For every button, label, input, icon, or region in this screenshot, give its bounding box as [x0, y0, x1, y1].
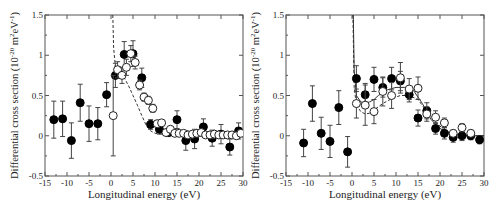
data-point — [308, 86, 316, 121]
x-tick-label: 20 — [195, 178, 205, 188]
y-axis-label: Differential cross section (10-20​ m2​eV… — [249, 11, 262, 179]
x-tick-label: -10 — [302, 178, 314, 188]
y-tick-label: 1 — [280, 50, 285, 60]
data-point — [59, 101, 67, 136]
data-point — [173, 111, 181, 129]
x-tick-label: -5 — [85, 178, 93, 188]
data-point — [414, 110, 422, 126]
data-point — [458, 131, 466, 141]
data-point — [158, 119, 166, 127]
figure: -15-10-5051015202530-0.500.511.5Longitud… — [0, 0, 501, 206]
data-point — [226, 139, 234, 155]
data-point — [144, 96, 152, 104]
y-tick-label: 1.5 — [32, 10, 44, 20]
data-point — [467, 129, 475, 137]
y-tick-label: 1.5 — [273, 10, 285, 20]
x-tick-label: -10 — [61, 178, 73, 188]
y-tick-label: 0 — [280, 131, 285, 141]
x-tick-label: 0 — [350, 178, 355, 188]
x-tick-label: 30 — [239, 178, 249, 188]
right-panel: -15-10-5051015202530-0.500.511.5Longitud… — [249, 10, 489, 201]
x-tick-label: 25 — [217, 178, 227, 188]
y-axis-label: Differential cross section (10-20​ m2​eV… — [8, 11, 21, 179]
x-axis-label: Longitudinal energy (eV) — [329, 188, 442, 201]
data-point — [458, 124, 466, 132]
data-point — [361, 85, 369, 125]
data-point — [335, 91, 343, 125]
y-tick-label: 1 — [39, 50, 44, 60]
data-point — [300, 129, 308, 156]
data-point — [352, 89, 360, 118]
data-point — [370, 67, 378, 91]
data-point — [414, 77, 422, 100]
x-tick-label: -5 — [326, 178, 334, 188]
y-tick-label: 0.5 — [273, 91, 285, 101]
left-panel: -15-10-5051015202530-0.500.511.5Longitud… — [8, 10, 248, 201]
data-point — [370, 100, 378, 124]
x-tick-label: 10 — [392, 178, 402, 188]
data-point — [85, 106, 93, 141]
plot-frame — [286, 15, 484, 176]
y-tick-label: -0.5 — [270, 171, 285, 181]
data-point — [432, 123, 440, 134]
data-point — [440, 118, 448, 128]
x-tick-label: 20 — [436, 178, 446, 188]
x-tick-label: 15 — [173, 178, 183, 188]
data-point — [449, 129, 457, 137]
x-tick-label: 0 — [109, 178, 114, 188]
data-point — [237, 129, 245, 137]
x-tick-label: 30 — [480, 178, 490, 188]
data-point — [94, 108, 102, 140]
data-point — [326, 125, 334, 157]
data-point — [67, 123, 75, 158]
x-tick-label: 5 — [131, 178, 136, 188]
x-axis-label: Longitudinal energy (eV) — [88, 188, 201, 201]
data-point — [136, 80, 144, 90]
data-point — [149, 104, 157, 112]
data-point — [396, 62, 404, 93]
data-point — [388, 83, 396, 109]
y-tick-label: 0.5 — [32, 91, 44, 101]
data-point — [344, 137, 352, 168]
x-tick-label: 15 — [414, 178, 424, 188]
data-point — [317, 117, 325, 149]
data-point — [103, 83, 111, 107]
data-point — [352, 66, 360, 92]
x-tick-label: 25 — [458, 178, 468, 188]
y-tick-label: -0.5 — [29, 171, 44, 181]
x-tick-label: 5 — [372, 178, 377, 188]
data-point — [476, 136, 484, 144]
y-tick-label: 0 — [39, 131, 44, 141]
x-tick-label: 10 — [151, 178, 161, 188]
data-point — [76, 84, 84, 121]
data-point — [50, 101, 58, 138]
